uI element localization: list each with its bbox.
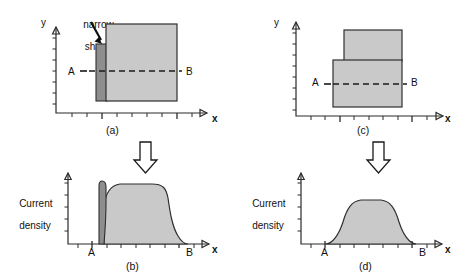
panel-d: Current density x A B (d) bbox=[233, 140, 466, 279]
panel-a-annotation-arrow-shaft bbox=[91, 22, 101, 40]
panel-b-figure bbox=[0, 140, 233, 279]
panel-a-narrow-shape bbox=[96, 44, 107, 101]
panel-c-upper-shape bbox=[344, 30, 402, 61]
panel-a-wide-shape bbox=[106, 24, 177, 101]
panel-c-figure bbox=[233, 0, 466, 140]
panel-b-wide-profile bbox=[104, 184, 188, 244]
panel-c-x-ticks bbox=[311, 116, 427, 122]
panel-a: narrow shape y x A B (a) bbox=[0, 0, 233, 140]
panel-a-x-ticks bbox=[72, 113, 192, 119]
panel-d-profile bbox=[326, 200, 416, 244]
panel-c: y x A B (c) bbox=[233, 0, 466, 140]
panel-b-narrow-profile bbox=[99, 181, 106, 244]
panel-a-figure bbox=[0, 0, 233, 140]
panel-d-figure bbox=[233, 140, 466, 279]
panel-b: Current density x A B (b) bbox=[0, 140, 233, 279]
